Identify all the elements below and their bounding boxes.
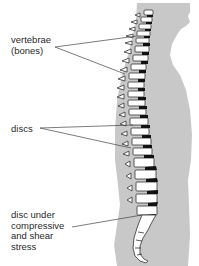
label-vertebrae: vertebrae (bones): [11, 35, 51, 56]
spine-diagram: vertebrae (bones) discs disc under compr…: [0, 0, 199, 266]
label-disc-under-stress: disc under compressive and shear stress: [11, 210, 64, 252]
label-discs: discs: [11, 124, 33, 135]
